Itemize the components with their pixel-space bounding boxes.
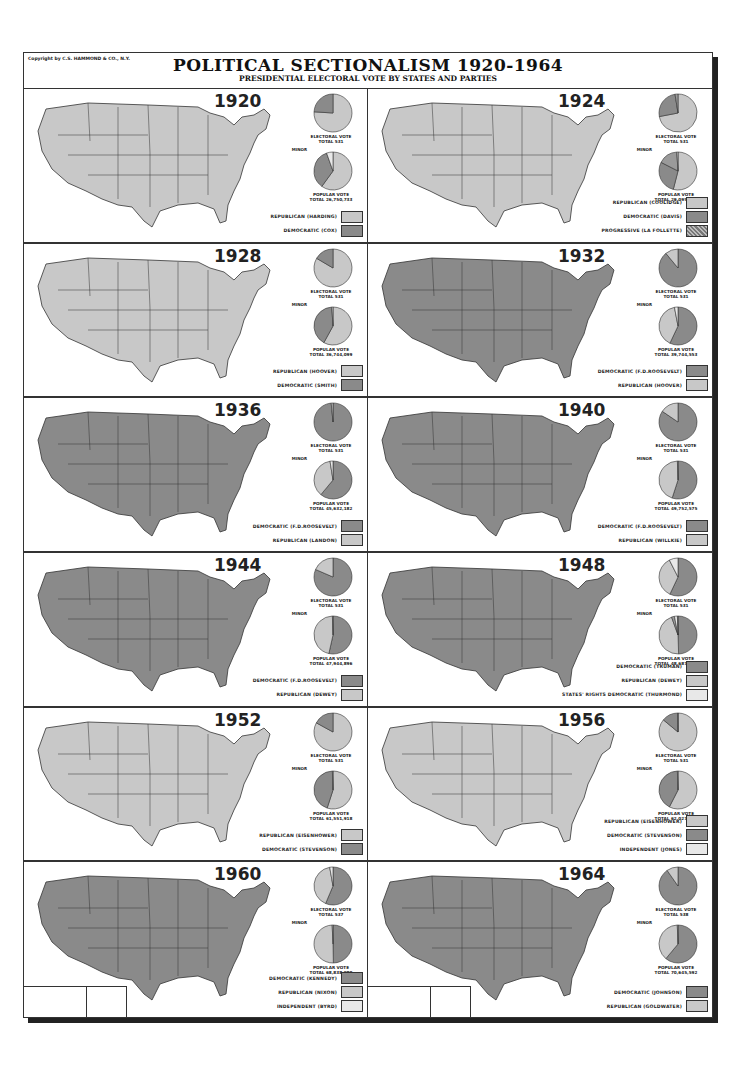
popular-vote-pie xyxy=(658,924,698,964)
popular-vote-label: POPULAR VOTE TOTAL 36,744,099 xyxy=(303,347,359,357)
electoral-vote-pie xyxy=(658,712,698,752)
legend-swatch xyxy=(341,689,363,701)
legend-label: DEMOCRATIC (DAVIS) xyxy=(623,214,682,219)
legend-label: STATES' RIGHTS DEMOCRATIC (THURMOND) xyxy=(562,692,682,697)
party-legend: REPUBLICAN (EISENHOWER) DEMOCRATIC (STEV… xyxy=(193,828,363,856)
minor-parties-note: MINOR xyxy=(292,920,307,925)
election-panel-1948: 1948 ELECTORAL VOTE TOTAL 531 MINOR POPU… xyxy=(368,553,712,708)
popular-vote-pie xyxy=(313,924,353,964)
election-panel-1932: 1932 ELECTORAL VOTE TOTAL 531 MINOR POPU… xyxy=(368,244,712,399)
legend-label: REPUBLICAN (NIXON) xyxy=(278,990,337,995)
legend-swatch xyxy=(341,225,363,237)
legend-row: REPUBLICAN (DEWEY) xyxy=(538,674,708,688)
legend-row: REPUBLICAN (EISENHOWER) xyxy=(193,828,363,842)
legend-label: DEMOCRATIC (F.D.ROOSEVELT) xyxy=(598,369,682,374)
electoral-vote-pie xyxy=(658,248,698,288)
legend-swatch xyxy=(686,829,708,841)
legend-label: REPUBLICAN (COOLIDGE) xyxy=(613,200,682,205)
party-legend: DEMOCRATIC (KENNEDY) REPUBLICAN (NIXON) … xyxy=(193,971,363,1013)
electoral-vote-pie xyxy=(658,557,698,597)
legend-label: REPUBLICAN (EISENHOWER) xyxy=(259,833,337,838)
legend-row: REPUBLICAN (LANDON) xyxy=(193,533,363,547)
legend-swatch xyxy=(686,520,708,532)
election-panel-1964: 1964 ELECTORAL VOTE TOTAL 538 MINOR POPU… xyxy=(368,862,712,1017)
minor-parties-note: MINOR xyxy=(637,147,652,152)
legend-row: INDEPENDENT (BYRD) xyxy=(193,999,363,1013)
legend-swatch xyxy=(686,675,708,687)
popular-vote-pie xyxy=(658,615,698,655)
legend-label: REPUBLICAN (LANDON) xyxy=(273,538,337,543)
minor-parties-note: MINOR xyxy=(637,456,652,461)
legend-label: DEMOCRATIC (SMITH) xyxy=(277,383,337,388)
election-panel-1936: 1936 ELECTORAL VOTE TOTAL 531 MINOR POPU… xyxy=(24,398,368,553)
party-legend: REPUBLICAN (HARDING) DEMOCRATIC (COX) xyxy=(193,210,363,238)
legend-row: DEMOCRATIC (F.D.ROOSEVELT) xyxy=(193,519,363,533)
legend-label: INDEPENDENT (BYRD) xyxy=(277,1004,337,1009)
legend-row: REPUBLICAN (DEWEY) xyxy=(193,688,363,702)
election-panel-grid: 1920 ELECTORAL VOTE TOTAL 531 MINOR POPU… xyxy=(24,89,712,1017)
legend-label: REPUBLICAN (GOLDWATER) xyxy=(607,1004,682,1009)
electoral-vote-pie xyxy=(313,248,353,288)
legend-row: DEMOCRATIC (JOHNSON) xyxy=(538,985,708,999)
legend-row: REPUBLICAN (WILLKIE) xyxy=(538,533,708,547)
electoral-vote-pie xyxy=(313,866,353,906)
legend-swatch xyxy=(341,986,363,998)
legend-row: DEMOCRATIC (COX) xyxy=(193,224,363,238)
legend-swatch xyxy=(341,1000,363,1012)
electoral-vote-label: ELECTORAL VOTE TOTAL 531 xyxy=(648,134,704,144)
legend-label: DEMOCRATIC (F.D.ROOSEVELT) xyxy=(253,678,337,683)
legend-row: REPUBLICAN (GOLDWATER) xyxy=(538,999,708,1013)
minor-parties-note: MINOR xyxy=(292,147,307,152)
legend-label: DEMOCRATIC (KENNEDY) xyxy=(269,976,337,981)
legend-swatch xyxy=(341,211,363,223)
minor-parties-note: MINOR xyxy=(292,302,307,307)
election-panel-1956: 1956 ELECTORAL VOTE TOTAL 531 MINOR POPU… xyxy=(368,708,712,863)
popular-vote-label: POPULAR VOTE TOTAL 45,632,182 xyxy=(303,501,359,511)
party-legend: DEMOCRATIC (F.D.ROOSEVELT) REPUBLICAN (D… xyxy=(193,674,363,702)
popular-vote-pie xyxy=(658,460,698,500)
legend-swatch xyxy=(686,197,708,209)
legend-swatch xyxy=(686,986,708,998)
election-panel-1940: 1940 ELECTORAL VOTE TOTAL 531 MINOR POPU… xyxy=(368,398,712,553)
legend-label: REPUBLICAN (WILLKIE) xyxy=(618,538,682,543)
legend-row: REPUBLICAN (NIXON) xyxy=(193,985,363,999)
electoral-vote-pie xyxy=(313,402,353,442)
popular-vote-label: POPULAR VOTE TOTAL 26,750,733 xyxy=(303,192,359,202)
legend-swatch xyxy=(341,829,363,841)
legend-label: REPUBLICAN (DEWEY) xyxy=(621,678,682,683)
legend-swatch xyxy=(686,1000,708,1012)
plate-header: Copyright by C.S. HAMMOND & CO., N.Y. PO… xyxy=(24,53,712,89)
hawaii-inset xyxy=(86,986,127,1017)
legend-swatch xyxy=(341,843,363,855)
plate-subtitle: PRESIDENTIAL ELECTORAL VOTE BY STATES AN… xyxy=(24,74,712,83)
legend-row: REPUBLICAN (HOOVER) xyxy=(193,364,363,378)
legend-swatch xyxy=(341,972,363,984)
minor-parties-note: MINOR xyxy=(637,920,652,925)
legend-label: REPUBLICAN (EISENHOWER) xyxy=(604,819,682,824)
election-year: 1948 xyxy=(558,555,605,575)
alaska-inset xyxy=(24,986,87,1017)
legend-swatch xyxy=(686,211,708,223)
popular-vote-pie xyxy=(313,615,353,655)
legend-swatch xyxy=(341,379,363,391)
electoral-vote-pie xyxy=(313,712,353,752)
minor-parties-note: MINOR xyxy=(637,302,652,307)
legend-row: REPUBLICAN (HARDING) xyxy=(193,210,363,224)
election-year: 1932 xyxy=(558,246,605,266)
popular-vote-pie xyxy=(313,306,353,346)
election-year: 1952 xyxy=(214,710,261,730)
election-year: 1944 xyxy=(214,555,261,575)
legend-swatch xyxy=(686,365,708,377)
minor-parties-note: MINOR xyxy=(637,611,652,616)
legend-label: DEMOCRATIC (F.D.ROOSEVELT) xyxy=(598,524,682,529)
popular-vote-pie xyxy=(313,770,353,810)
election-year: 1964 xyxy=(558,864,605,884)
election-panel-1952: 1952 ELECTORAL VOTE TOTAL 531 MINOR POPU… xyxy=(24,708,368,863)
legend-swatch xyxy=(686,661,708,673)
election-panel-1960: 1960 ELECTORAL VOTE TOTAL 537 MINOR POPU… xyxy=(24,862,368,1017)
electoral-vote-label: ELECTORAL VOTE TOTAL 531 xyxy=(648,598,704,608)
electoral-vote-pie xyxy=(313,93,353,133)
party-legend: DEMOCRATIC (JOHNSON) REPUBLICAN (GOLDWAT… xyxy=(538,985,708,1013)
electoral-vote-label: ELECTORAL VOTE TOTAL 531 xyxy=(303,443,359,453)
party-legend: DEMOCRATIC (TRUMAN) REPUBLICAN (DEWEY) S… xyxy=(538,660,708,702)
